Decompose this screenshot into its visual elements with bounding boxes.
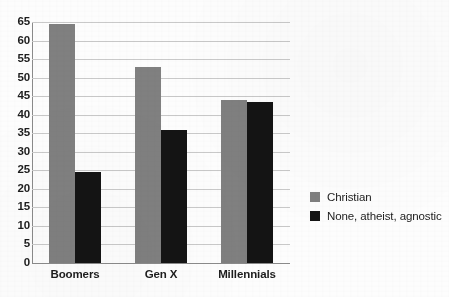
bar-millennials-none-atheist-agnostic (247, 102, 273, 263)
bar-millennials-christian (221, 100, 247, 263)
y-axis-tick-10: 10 (4, 219, 30, 231)
y-axis-tick-20: 20 (4, 182, 30, 194)
legend-swatch-icon-none-atheist-agnostic (310, 211, 320, 221)
bar-gen-x-none-atheist-agnostic (161, 130, 187, 263)
y-axis-tick-labels: 05101520253035404550556065 (0, 0, 30, 297)
chart-legend: Christian None, atheist, agnostic (310, 191, 442, 222)
y-axis-tick-45: 45 (4, 89, 30, 101)
x-axis-baseline (32, 263, 290, 264)
legend-swatch-icon-christian (310, 192, 320, 202)
y-axis-tick-15: 15 (4, 200, 30, 212)
x-axis-label-boomers: Boomers (32, 268, 118, 280)
y-axis-tick-25: 25 (4, 163, 30, 175)
bar-chart: 05101520253035404550556065 BoomersGen XM… (0, 0, 449, 297)
bar-boomers-christian (49, 24, 75, 263)
y-axis-tick-50: 50 (4, 71, 30, 83)
y-axis-tick-5: 5 (4, 237, 30, 249)
legend-item-none-atheist-agnostic: None, atheist, agnostic (310, 210, 442, 222)
x-axis-label-millennials: Millennials (204, 268, 290, 280)
legend-label-christian: Christian (327, 191, 371, 203)
bar-boomers-none-atheist-agnostic (75, 172, 101, 263)
legend-item-christian: Christian (310, 191, 442, 203)
legend-label-none-atheist-agnostic: None, atheist, agnostic (327, 210, 442, 222)
y-axis-tick-55: 55 (4, 52, 30, 64)
x-axis-label-gen-x: Gen X (118, 268, 204, 280)
y-axis-tick-60: 60 (4, 34, 30, 46)
y-axis-tick-30: 30 (4, 145, 30, 157)
y-axis-tick-40: 40 (4, 108, 30, 120)
plot-area (32, 22, 290, 263)
y-axis-tick-35: 35 (4, 126, 30, 138)
bar-gen-x-christian (135, 67, 161, 263)
gridline (32, 22, 290, 23)
y-axis-tick-0: 0 (4, 256, 30, 268)
y-axis-tick-65: 65 (4, 15, 30, 27)
